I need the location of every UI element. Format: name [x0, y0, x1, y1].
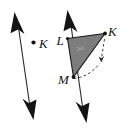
triangle-KLM-shape [68, 34, 106, 78]
vertex-K-label: K [107, 24, 118, 39]
vertex-L-label: L [56, 33, 64, 48]
geometry-figure: K L K M [0, 0, 126, 132]
left-point-K-dot [31, 40, 35, 44]
left-line-shaft [18, 24, 30, 107]
left-line-of-reflection [11, 12, 37, 120]
left-point-K-group: K [31, 36, 49, 51]
vertex-L-dot [66, 37, 69, 40]
dashed-arrow-K-shaft [102, 39, 105, 58]
dashed-arrow-K-head [99, 56, 105, 63]
dashed-arrow-K [99, 39, 105, 63]
geometry-canvas: K L K M [0, 0, 126, 132]
left-point-K-label: K [38, 36, 49, 51]
left-line-arrowhead-top [11, 12, 25, 34]
vertex-K-dot [103, 32, 107, 36]
triangle-KLM [66, 32, 107, 79]
vertex-M-label: M [57, 72, 70, 87]
right-line-arrowhead-top [64, 10, 78, 32]
